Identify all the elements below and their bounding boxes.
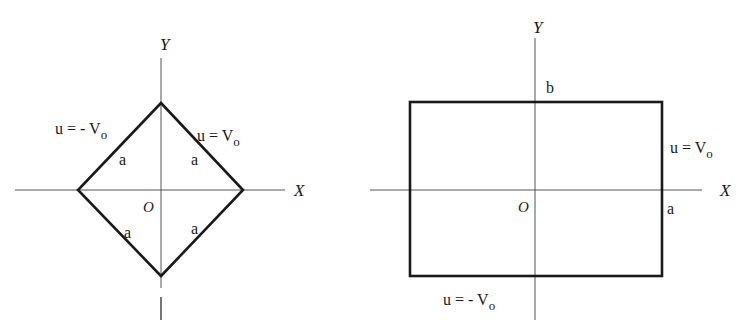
diamond-x-axis-label: X bbox=[293, 181, 305, 200]
diamond-side-label: a bbox=[124, 224, 131, 241]
rectangle-boundary-label-negative: u = - Vo bbox=[443, 291, 495, 313]
diamond-boundary-label-positive: u = Vo bbox=[197, 127, 240, 149]
diagram-canvas: Y X O u = - Vo u = Vo a a a a Y X O b a … bbox=[0, 0, 746, 334]
rectangle-figure: Y X O b a u = Vo u = - Vo bbox=[370, 18, 731, 320]
diamond-y-axis-label: Y bbox=[160, 35, 171, 54]
rectangle-boundary-label-positive: u = Vo bbox=[670, 139, 713, 161]
rectangle-origin-label: O bbox=[518, 199, 529, 215]
diamond-side-label: a bbox=[191, 220, 198, 237]
diamond-origin-label: O bbox=[143, 199, 154, 215]
diamond-boundary-label-negative: u = - Vo bbox=[55, 120, 107, 142]
rectangle-half-height-label: b bbox=[546, 79, 554, 96]
rectangle-half-width-label: a bbox=[667, 200, 674, 217]
rectangle-boundary bbox=[410, 102, 662, 276]
diamond-figure: Y X O u = - Vo u = Vo a a a a bbox=[15, 35, 305, 320]
rectangle-y-axis-label: Y bbox=[533, 18, 544, 37]
diamond-side-label: a bbox=[119, 151, 126, 168]
diamond-side-label: a bbox=[191, 151, 198, 168]
rectangle-x-axis-label: X bbox=[719, 181, 731, 200]
